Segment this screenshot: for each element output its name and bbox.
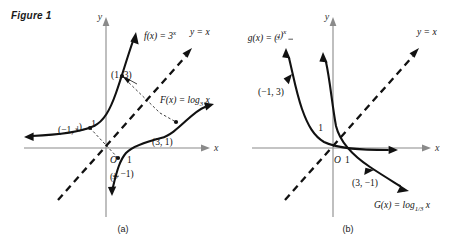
panel-b-y-axis-label: y	[324, 11, 330, 22]
panel-b-exponential-label: g(x) = (13)x	[248, 28, 286, 44]
panel-a-identity-label: y = x	[189, 27, 210, 37]
panel-a-point-3-1	[174, 120, 178, 124]
panel-a: y x y = x f(x) = 3x F(x) = log3 x	[24, 11, 219, 234]
panel-a-y-tick-label: 1	[91, 119, 96, 129]
panel-b-point-neg1-3	[284, 74, 292, 84]
panel-b-origin-label: O	[334, 155, 341, 165]
panel-a-point-neg1-third-label: (−1, 13)	[58, 122, 82, 136]
figure-svg: y x y = x f(x) = 3x F(x) = log3 x	[0, 0, 470, 251]
panel-b-logarithm-label: G(x) = log1/3 x	[374, 200, 431, 212]
panel-a-caption: (a)	[118, 224, 129, 234]
figure-container: Figure 1 y x y = x	[0, 0, 470, 251]
panel-a-point-1-3-label: (1, 3)	[111, 70, 132, 81]
panel-a-reflection-leader-2	[90, 128, 118, 158]
panel-a-logarithm-label: F(x) = log3 x	[159, 95, 210, 107]
panel-a-y-axis-label: y	[97, 11, 103, 22]
panel-a-x-axis	[24, 145, 210, 152]
panel-b: y x y = x g(x) = (13)x	[248, 11, 440, 234]
panel-a-origin-label: O	[110, 155, 117, 165]
panel-b-x-tick-label: 1	[345, 155, 350, 165]
panel-a-x-tick-label: 1	[127, 155, 132, 165]
panel-b-x-axis-label: x	[434, 142, 440, 153]
panel-b-y-tick-label: 1	[318, 123, 323, 133]
panel-a-exponential-curve	[32, 32, 139, 136]
panel-b-identity-label: y = x	[416, 27, 437, 37]
panel-b-point-neg1-3-label: (−1, 3)	[258, 87, 284, 98]
panel-b-point-3-neg1-label: (3, −1)	[352, 178, 378, 189]
panel-a-x-axis-label: x	[213, 142, 219, 153]
panel-a-point-3-1-label: (3, 1)	[152, 137, 173, 148]
panel-b-caption: (b)	[343, 224, 354, 234]
panel-a-exponential-label: f(x) = 3x	[144, 29, 176, 42]
